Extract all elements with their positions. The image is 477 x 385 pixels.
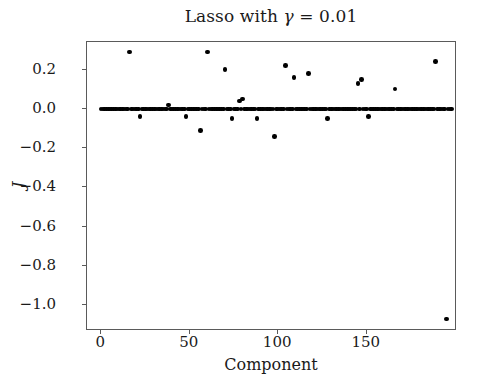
figure-container: Lasso with γ = 0.01 J Component 0.20.0−0…: [0, 0, 477, 385]
y-tick-mark: [82, 147, 86, 148]
scatter-point: [127, 50, 132, 55]
scatter-point: [356, 81, 361, 86]
x-axis-label: Component: [86, 355, 456, 374]
scatter-point: [306, 71, 311, 76]
scatter-point: [255, 116, 260, 121]
scatter-point: [272, 134, 277, 139]
x-tick-label: 0: [70, 333, 130, 351]
x-tick-mark: [189, 330, 190, 334]
scatter-point: [240, 97, 245, 102]
y-tick-mark: [82, 186, 86, 187]
x-tick-mark: [366, 330, 367, 334]
scatter-point: [198, 128, 203, 133]
y-tick-label: −0.4: [0, 177, 56, 195]
scatter-point: [223, 67, 228, 72]
scatter-point: [325, 116, 330, 121]
y-tick-label: −0.6: [0, 217, 56, 235]
x-tick-label: 50: [159, 333, 219, 351]
chart-title-prefix: Lasso with: [185, 6, 284, 26]
y-tick-mark: [82, 69, 86, 70]
scatter-point: [433, 59, 438, 64]
scatter-point: [205, 50, 210, 55]
scatter-point: [359, 77, 364, 82]
gamma-symbol: γ: [283, 6, 293, 26]
y-tick-mark: [82, 108, 86, 109]
scatter-point: [230, 116, 235, 121]
y-tick-label: 0.0: [0, 99, 56, 117]
scatter-point: [184, 114, 189, 119]
scatter-point: [449, 107, 454, 112]
scatter-point: [292, 75, 297, 80]
scatter-point: [283, 63, 288, 68]
chart-title: Lasso with γ = 0.01: [86, 6, 456, 26]
x-tick-label: 100: [247, 333, 307, 351]
y-tick-label: −0.2: [0, 138, 56, 156]
x-tick-label: 150: [336, 333, 396, 351]
scatter-point: [138, 114, 143, 119]
y-tick-label: −0.8: [0, 256, 56, 274]
x-tick-mark: [100, 330, 101, 334]
scatter-point: [366, 114, 371, 119]
y-tick-mark: [82, 265, 86, 266]
x-tick-mark: [277, 330, 278, 334]
y-tick-mark: [82, 226, 86, 227]
scatter-point: [393, 87, 398, 92]
y-tick-label: −1.0: [0, 295, 56, 313]
scatter-point: [444, 317, 449, 322]
y-tick-label: 0.2: [0, 60, 56, 78]
y-tick-mark: [82, 304, 86, 305]
plot-area: [86, 41, 456, 330]
chart-title-suffix: = 0.01: [294, 6, 358, 26]
